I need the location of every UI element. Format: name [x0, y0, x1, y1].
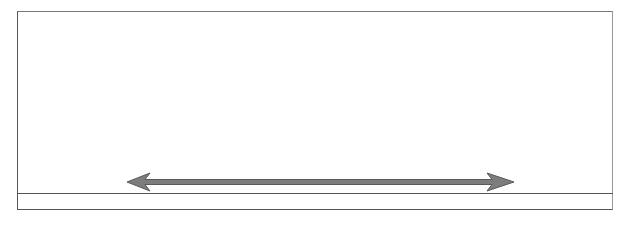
- double-headed-arrow-icon: [120, 170, 520, 194]
- caption-divider: [17, 193, 613, 194]
